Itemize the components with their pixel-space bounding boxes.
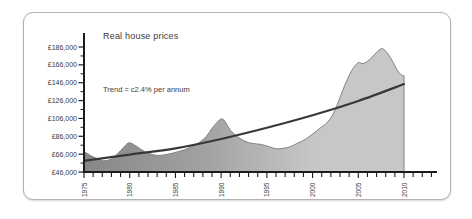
trend-annotation: Trend = c2.4% per annum <box>103 85 190 94</box>
y-axis-tick-label: £106,000 <box>48 115 77 122</box>
x-axis-tick-label: 2000 <box>309 182 316 197</box>
y-axis-tick-label: £66,000 <box>52 151 77 158</box>
y-axis-tick-label: £186,000 <box>48 44 77 51</box>
x-axis-tick-label: 1980 <box>126 182 133 197</box>
x-axis-tick-label: 2005 <box>355 182 362 197</box>
x-axis-tick-label: 1995 <box>263 182 270 197</box>
house-prices-chart: £46,000£66,000£86,000£106,000£126,000£14… <box>0 0 472 219</box>
y-axis-tick-label: £166,000 <box>48 61 77 68</box>
chart-title: Real house prices <box>103 31 178 41</box>
y-axis-tick-label: £146,000 <box>48 79 77 86</box>
y-axis-tick-label: £86,000 <box>52 133 77 140</box>
y-axis-tick-label: £46,000 <box>52 169 77 176</box>
x-axis-tick-label: 1975 <box>81 182 88 197</box>
y-axis-tick-label: £126,000 <box>48 97 77 104</box>
x-axis-tick-label: 2010 <box>401 182 408 197</box>
screenshot-root: £46,000£66,000£86,000£106,000£126,000£14… <box>0 0 472 219</box>
x-axis-tick-label: 1990 <box>218 182 225 197</box>
x-axis-tick-label: 1985 <box>172 182 179 197</box>
